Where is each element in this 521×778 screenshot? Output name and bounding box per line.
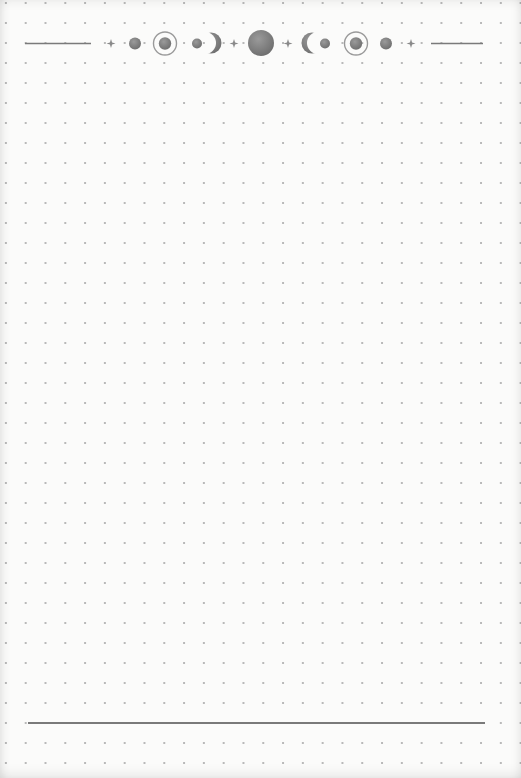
moon-phase-banner xyxy=(0,0,521,86)
waning-crescent-icon xyxy=(302,33,331,54)
new-moon-dot-icon xyxy=(380,38,392,50)
waxing-crescent-icon xyxy=(192,33,222,54)
notebook-page: moon phase banner horizontal rule xyxy=(0,0,521,778)
sparkle-icon xyxy=(284,39,293,48)
ringed-moon-icon xyxy=(154,32,177,55)
moon-phase-header: moon phase banner xyxy=(0,0,521,86)
ringed-moon-icon xyxy=(345,32,368,55)
new-moon-dot-icon xyxy=(129,38,141,50)
sparkle-icon xyxy=(107,39,116,48)
sparkle-icon xyxy=(407,39,416,48)
full-moon-icon xyxy=(248,30,274,56)
sparkle-icon xyxy=(230,39,239,48)
bottom-rule-line xyxy=(28,722,485,724)
